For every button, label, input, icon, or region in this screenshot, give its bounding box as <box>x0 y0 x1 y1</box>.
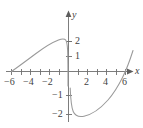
x-tick-label--4: −4 <box>23 77 34 87</box>
y-tick-label--1: −1 <box>52 90 63 100</box>
curve-left-branch <box>12 39 69 86</box>
x-tick-label-4: 4 <box>103 77 108 87</box>
x-tick-label--2: −2 <box>42 77 53 87</box>
x-axis-arrow-icon <box>127 69 134 75</box>
y-axis-label: y <box>72 10 76 20</box>
y-tick-label-1: 1 <box>75 51 80 61</box>
x-tick-label--6: −6 <box>4 77 15 87</box>
y-tick-label-2: 2 <box>75 36 80 46</box>
y-tick-label--2: −2 <box>52 109 63 119</box>
x-tick-label-6: 6 <box>122 77 127 87</box>
x-axis-label: x <box>135 66 139 76</box>
y-axis-arrow-icon <box>66 11 72 18</box>
graph-figure: −6 −4 −2 2 4 6 2 1 −1 −2 x y <box>0 0 143 128</box>
x-tick-label-2: 2 <box>84 77 89 87</box>
